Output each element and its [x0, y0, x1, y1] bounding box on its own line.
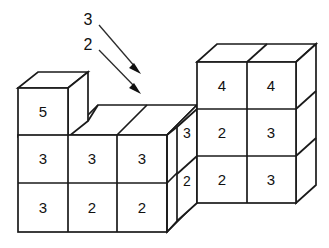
- cube-label-left-r2c1: 3: [39, 199, 47, 216]
- cube-label-right-r3c2: 3: [267, 171, 275, 188]
- annotation-label-3: 3: [84, 11, 93, 28]
- side-label-upper: 3: [183, 125, 191, 141]
- annotation-arrowhead-3: [129, 63, 141, 74]
- cube-label-right-r2c2: 3: [267, 124, 275, 141]
- annotation-group: 3 2: [84, 11, 141, 94]
- annotation-arrowhead-2: [129, 83, 141, 94]
- cube-label-left-top: 5: [39, 103, 47, 120]
- annotation-line-2: [99, 50, 136, 88]
- cube-diagram: 5 3 3 3 3 2 2: [0, 0, 329, 248]
- right-block-group: 3 2 4 4 2 3 2 3: [167, 44, 316, 232]
- cube-label-right-r1c2: 4: [267, 77, 275, 94]
- cube-label-left-r2c3: 2: [138, 199, 146, 216]
- left-block-group: 5 3 3 3 3 2 2: [18, 72, 197, 232]
- side-label-lower: 2: [183, 173, 191, 189]
- annotation-label-2: 2: [84, 36, 93, 53]
- cube-label-left-r1c2: 3: [88, 150, 96, 167]
- cube-label-left-r2c2: 2: [88, 199, 96, 216]
- cube-label-right-r3c1: 2: [218, 171, 226, 188]
- cube-label-right-r1c1: 4: [218, 77, 226, 94]
- right-block-right-side-fill: [296, 44, 316, 203]
- figure-canvas: 5 3 3 3 3 2 2: [0, 0, 329, 248]
- annotation-line-3: [99, 25, 136, 68]
- cube-label-right-r2c1: 2: [218, 124, 226, 141]
- cube-label-left-r1c3: 3: [138, 150, 146, 167]
- cube-label-left-r1c1: 3: [39, 150, 47, 167]
